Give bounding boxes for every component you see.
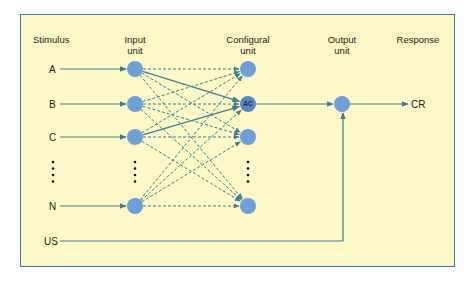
network-diagram: Stimulus Input unit Configural unit Outp… <box>0 0 475 283</box>
stimulus-ellipsis <box>52 161 55 183</box>
us-to-output-line <box>60 113 343 241</box>
stimulus-label: C <box>49 132 56 143</box>
response-cr-label: CR <box>411 99 425 110</box>
configural-unit-node <box>240 129 256 145</box>
stimulus-label: B <box>49 99 56 110</box>
header-response: Response <box>397 34 440 45</box>
header-input-line1: Input <box>124 34 145 45</box>
configural-ac-label: AC <box>243 100 253 107</box>
input-unit-node <box>127 198 143 214</box>
header-output-line1: Output <box>328 34 357 45</box>
header-configural-line1: Configural <box>226 34 269 45</box>
input-unit-node <box>127 96 143 112</box>
configural-ellipsis <box>247 161 250 183</box>
input-unit-node <box>127 129 143 145</box>
configural-units: AC <box>240 61 256 214</box>
stimulus-rows: ABCN <box>49 64 126 212</box>
configural-unit-node <box>240 198 256 214</box>
header-input-line2: unit <box>127 45 143 56</box>
input-units <box>127 61 143 214</box>
input-unit-node <box>127 61 143 77</box>
configural-unit-node <box>240 61 256 77</box>
header-configural-line2: unit <box>240 45 256 56</box>
header-stimulus: Stimulus <box>33 34 70 45</box>
us-label: US <box>44 236 58 247</box>
stimulus-label: A <box>49 64 56 75</box>
header-output-line2: unit <box>334 45 350 56</box>
input-configural-connections <box>140 69 242 206</box>
input-ellipsis <box>134 161 137 183</box>
output-unit-node <box>334 96 350 112</box>
stimulus-label: N <box>49 201 56 212</box>
